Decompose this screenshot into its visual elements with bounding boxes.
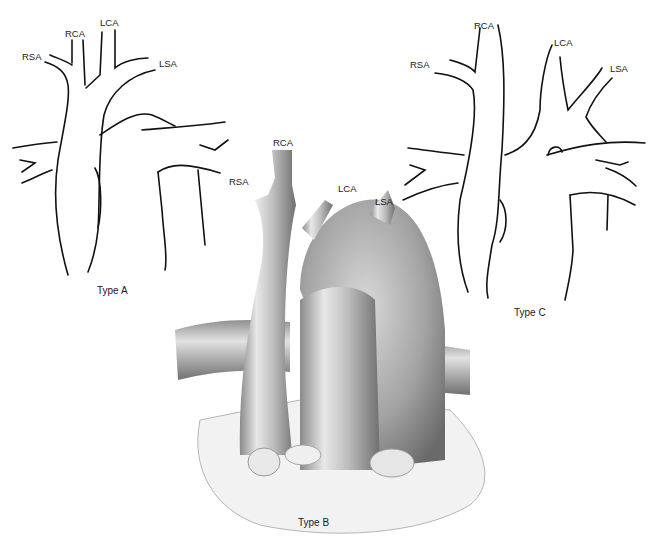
type-c-label-rsa: RSA xyxy=(410,60,430,70)
type-c-line-drawing xyxy=(0,0,656,540)
type-c-label-rca: RCA xyxy=(474,21,494,31)
type-b-label-rca: RCA xyxy=(273,138,293,148)
type-b-label-lca: LCA xyxy=(338,184,356,194)
type-a-caption: Type A xyxy=(97,286,128,296)
type-a-label-lsa: LSA xyxy=(159,59,177,69)
type-a-label-rsa: RSA xyxy=(22,52,42,62)
type-b-label-rsa: RSA xyxy=(229,177,249,187)
type-a-label-rca: RCA xyxy=(65,29,85,39)
type-c-label-lca: LCA xyxy=(554,38,572,48)
type-b-caption: Type B xyxy=(298,518,329,528)
type-c-caption: Type C xyxy=(514,308,546,318)
type-b-label-lsa: LSA xyxy=(375,197,393,207)
type-c-label-lsa: LSA xyxy=(610,64,628,74)
type-a-label-lca: LCA xyxy=(100,18,118,28)
